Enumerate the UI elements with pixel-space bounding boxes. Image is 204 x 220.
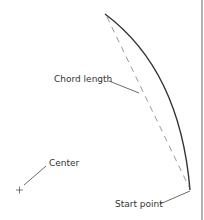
chord-length-label: Chord length xyxy=(54,74,112,84)
center-cross-icon xyxy=(16,187,23,194)
start-point-leader xyxy=(160,191,190,204)
chord-line xyxy=(107,17,189,187)
center-leader xyxy=(24,166,46,185)
start-point-label: Start point xyxy=(115,199,163,209)
arc-diagram: Chord length Center Start point xyxy=(0,0,204,220)
center-label: Center xyxy=(49,158,80,168)
chord-length-leader xyxy=(109,81,139,93)
